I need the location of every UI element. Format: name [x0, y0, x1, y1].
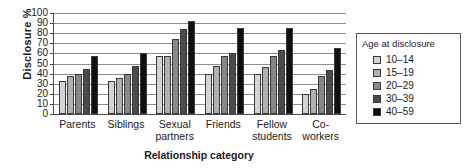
- bar: [75, 74, 82, 114]
- legend-label: 15–19: [386, 67, 414, 79]
- x-tick-label: Sexual partners: [150, 118, 199, 142]
- bar: [180, 29, 187, 114]
- legend-swatch: [373, 108, 381, 116]
- legend-swatch: [373, 82, 381, 90]
- x-tick-label: Fellow students: [248, 118, 297, 142]
- bar-group: [249, 13, 298, 114]
- legend-title: Age at disclosure: [362, 38, 455, 50]
- y-axis-tick-labels: 1009080706050403020100: [18, 8, 48, 116]
- bar-chart: Disclosure % 1009080706050403020100 Pare…: [0, 0, 470, 168]
- bar-group: [54, 13, 103, 114]
- plot-area: [53, 13, 346, 115]
- bar-group: [200, 13, 249, 114]
- x-tick-label: Friends: [199, 118, 248, 142]
- legend-item: 10–14: [362, 53, 455, 66]
- bar: [254, 74, 261, 114]
- bar: [91, 56, 98, 114]
- x-tick-label: Parents: [53, 118, 102, 142]
- bar: [205, 74, 212, 114]
- x-axis-tick-labels: ParentsSiblingsSexual partnersFriendsFel…: [53, 118, 345, 142]
- legend-items: 10–1415–1920–2930–3940–59: [362, 53, 455, 118]
- bar: [318, 76, 325, 114]
- bar: [302, 94, 309, 114]
- bar: [286, 28, 293, 114]
- legend-item: 30–39: [362, 92, 455, 105]
- bar: [116, 78, 123, 114]
- bar: [334, 48, 341, 114]
- legend-label: 40–59: [386, 106, 414, 118]
- bar: [229, 53, 236, 114]
- legend: Age at disclosure 10–1415–1920–2930–3940…: [356, 33, 461, 124]
- y-tick-label: 0: [18, 109, 48, 119]
- bar-group: [103, 13, 152, 114]
- bar: [132, 66, 139, 114]
- bar: [278, 50, 285, 114]
- bar: [326, 70, 333, 114]
- bar: [124, 74, 131, 114]
- bar: [67, 76, 74, 114]
- x-tick-label: Co-workers: [296, 118, 345, 142]
- legend-item: 20–29: [362, 79, 455, 92]
- bar: [164, 56, 171, 114]
- bar: [213, 66, 220, 114]
- bar: [188, 21, 195, 114]
- bar: [237, 28, 244, 114]
- y-tick-mark: [50, 114, 54, 115]
- y-tick-label: 50: [18, 59, 48, 69]
- legend-swatch: [373, 56, 381, 64]
- bar: [262, 67, 269, 114]
- bar: [140, 53, 147, 114]
- legend-label: 20–29: [386, 80, 414, 92]
- y-tick-label: 60: [18, 48, 48, 58]
- bar-group: [297, 13, 346, 114]
- bar: [172, 39, 179, 114]
- bar-group: [151, 13, 200, 114]
- bar-groups: [54, 13, 346, 114]
- x-tick-label: Siblings: [102, 118, 151, 142]
- bar: [156, 56, 163, 114]
- legend-swatch: [373, 69, 381, 77]
- bar: [221, 56, 228, 114]
- legend-label: 10–14: [386, 54, 414, 66]
- bar: [108, 81, 115, 114]
- x-axis-title: Relationship category: [53, 149, 345, 161]
- legend-item: 15–19: [362, 66, 455, 79]
- legend-label: 30–39: [386, 93, 414, 105]
- bar: [83, 69, 90, 114]
- legend-swatch: [373, 95, 381, 103]
- bar: [310, 89, 317, 114]
- bar: [59, 81, 66, 114]
- legend-item: 40–59: [362, 105, 455, 118]
- bar: [270, 56, 277, 114]
